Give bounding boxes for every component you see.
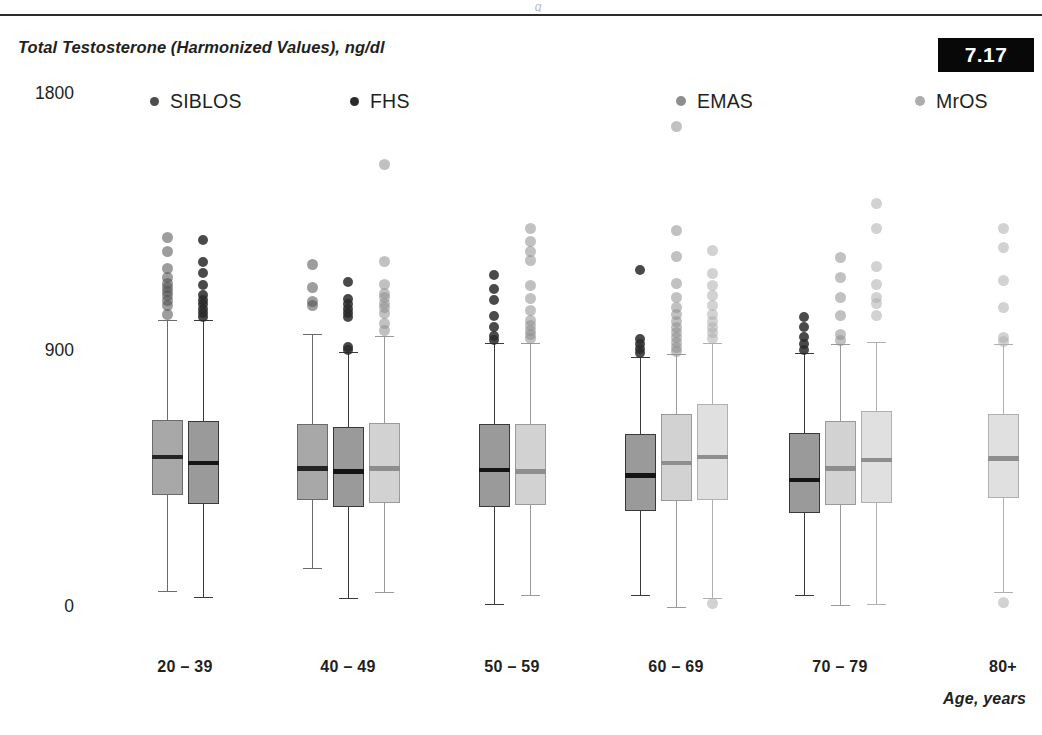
outlier-point: [198, 280, 208, 290]
outlier-point: [307, 259, 318, 270]
whisker-lower: [804, 513, 805, 596]
outlier-point: [671, 225, 682, 236]
outlier-point: [835, 252, 846, 263]
outlier-point: [998, 332, 1009, 343]
outlier-point: [198, 268, 208, 278]
whisker-upper: [348, 352, 349, 428]
y-tick-900: 900: [8, 340, 74, 361]
whisker-upper: [1003, 344, 1004, 414]
boxplot-canvas: 0900180020 – 3940 – 4950 – 5960 – 6970 –…: [0, 0, 1042, 735]
whisker-upper: [712, 343, 713, 404]
y-tick-1800: 1800: [8, 83, 74, 104]
outlier-point: [162, 232, 173, 243]
outlier-point: [707, 245, 718, 256]
outlier-point: [525, 293, 536, 304]
outlier-point: [671, 251, 682, 262]
outlier-point: [707, 290, 718, 301]
outlier-point: [835, 272, 846, 283]
whisker-lower: [384, 503, 385, 593]
whisker-upper: [167, 320, 168, 420]
box-siblos[interactable]: [297, 424, 328, 500]
outlier-point: [379, 318, 390, 329]
whisker-lower: [640, 511, 641, 595]
whisker-upper: [804, 353, 805, 433]
x-axis-title: Age, years: [943, 690, 1026, 708]
box-emas[interactable]: [515, 424, 546, 505]
outlier-point: [799, 322, 809, 332]
outlier-point: [998, 275, 1009, 286]
cap-lower: [831, 605, 850, 606]
outlier-point: [162, 246, 173, 257]
outlier-point: [307, 282, 318, 293]
outlier-point: [198, 290, 208, 300]
outlier-point: [998, 302, 1009, 313]
x-tick-6069: 60 – 69: [606, 658, 746, 676]
whisker-lower: [1003, 498, 1004, 592]
outlier-point: [871, 310, 882, 321]
outlier-point: [871, 198, 882, 209]
outlier-point: [525, 315, 536, 326]
outlier-point: [707, 280, 718, 291]
cap-lower: [667, 607, 686, 608]
whisker-lower: [712, 500, 713, 598]
whisker-lower: [840, 505, 841, 605]
cap-lower: [339, 598, 358, 599]
median-line: [479, 468, 510, 473]
whisker-lower: [494, 507, 495, 604]
whisker-upper: [840, 344, 841, 421]
box-emas[interactable]: [369, 423, 400, 503]
outlier-point: [525, 223, 536, 234]
outlier-point: [871, 223, 882, 234]
outlier-point: [671, 292, 682, 303]
outlier-point: [835, 329, 846, 340]
x-tick-7079: 70 – 79: [770, 658, 910, 676]
outlier-point: [799, 312, 809, 322]
outlier-point: [707, 268, 718, 279]
cap-lower: [631, 595, 650, 596]
outlier-point: [835, 292, 846, 303]
outlier-point: [343, 277, 353, 287]
median-line: [988, 456, 1019, 461]
x-tick-4049: 40 – 49: [278, 658, 418, 676]
outlier-point: [489, 311, 499, 321]
outlier-point: [671, 278, 682, 289]
box-emas[interactable]: [825, 421, 856, 505]
box-fhs[interactable]: [789, 433, 820, 513]
y-tick-0: 0: [8, 596, 74, 617]
cap-upper: [303, 334, 322, 335]
outlier-point: [307, 296, 318, 307]
outlier-point: [198, 257, 208, 267]
box-fhs[interactable]: [333, 427, 364, 507]
cap-upper: [158, 320, 177, 321]
outlier-point: [162, 263, 173, 274]
median-line: [188, 461, 219, 466]
whisker-upper: [530, 343, 531, 424]
cap-lower: [521, 595, 540, 596]
outlier-point: [525, 305, 536, 316]
cap-lower: [303, 568, 322, 569]
whisker-upper: [640, 357, 641, 434]
median-line: [625, 473, 656, 478]
outlier-point: [871, 292, 882, 303]
outlier-point: [379, 256, 390, 267]
median-line: [297, 466, 328, 471]
whisker-upper: [494, 343, 495, 424]
outlier-point: [871, 279, 882, 290]
outlier-point: [998, 223, 1009, 234]
outlier-point: [489, 270, 499, 280]
whisker-upper: [384, 336, 385, 423]
outlier-point: [998, 242, 1009, 253]
median-line: [515, 469, 546, 474]
cap-lower: [194, 597, 213, 598]
box-mros[interactable]: [697, 404, 728, 499]
median-line: [661, 461, 692, 466]
whisker-upper: [876, 342, 877, 412]
box-fhs[interactable]: [479, 424, 510, 507]
outlier-point: [525, 236, 536, 247]
outlier-point: [343, 294, 353, 304]
x-tick-5059: 50 – 59: [442, 658, 582, 676]
whisker-lower: [167, 495, 168, 590]
outlier-point: [707, 598, 718, 609]
box-emas[interactable]: [661, 414, 692, 501]
cap-lower: [867, 604, 886, 605]
